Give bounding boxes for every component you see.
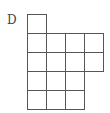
- grid-cell: [46, 33, 66, 53]
- grid-cell: [65, 90, 85, 110]
- grid-cell: [46, 52, 66, 72]
- grid-cell: [27, 33, 47, 53]
- grid-cell: [65, 52, 85, 72]
- grid-cell: [27, 14, 47, 34]
- grid-cell: [46, 71, 66, 91]
- grid-cell: [84, 33, 104, 53]
- grid-cell: [65, 33, 85, 53]
- grid-cell: [84, 52, 104, 72]
- grid-cell: [27, 71, 47, 91]
- figure-label: D: [7, 14, 17, 26]
- grid-cell: [46, 90, 66, 110]
- grid-cell: [27, 90, 47, 110]
- grid-cell: [27, 52, 47, 72]
- grid-cell: [65, 71, 85, 91]
